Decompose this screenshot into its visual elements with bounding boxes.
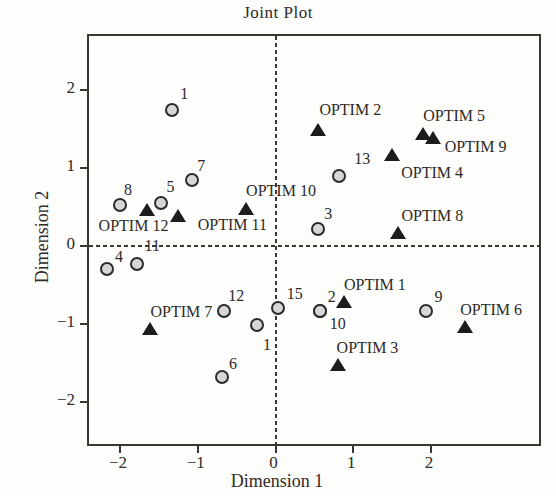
data-point-circle-6 [215,370,229,384]
data-point-label: 7 [197,158,205,174]
data-point-label: 11 [144,238,159,254]
y-axis-tick-label: 2 [41,78,75,98]
zero-reference-line-vertical [275,36,277,444]
chart-title: Joint Plot [243,3,313,23]
data-point-label: 10 [330,316,346,332]
data-point-label: OPTIM 12 [99,218,169,234]
data-point-label: OPTIM 2 [319,102,381,118]
data-point-label: 9 [435,289,443,305]
y-axis-tick [80,167,87,169]
data-point-triangle-optim-12 [139,203,155,216]
x-axis-tick-label: −1 [187,453,205,473]
data-point-triangle-optim-7 [142,322,158,335]
data-point-circle-7 [185,173,199,187]
data-point-label: OPTIM 10 [246,183,316,199]
data-point-circle-13 [332,169,346,183]
y-axis-tick [80,245,87,247]
data-point-label: OPTIM 6 [460,302,522,318]
data-point-label: 1 [263,337,271,353]
plot-area: 17851334111215210916OPTIM 2OPTIM 5OPTIM … [87,34,541,446]
data-point-triangle-optim-10 [238,202,254,215]
data-point-triangle-optim-6 [457,320,473,333]
data-point-label: OPTIM 11 [198,217,267,233]
x-axis-tick [119,446,121,453]
data-point-triangle-optim-8 [390,226,406,239]
x-axis-tick [352,446,354,453]
joint-plot-figure: Joint Plot 17851334111215210916OPTIM 2OP… [0,0,556,496]
x-axis-title: Dimension 1 [231,471,324,492]
data-point-label: 3 [324,206,332,222]
data-point-circle-1 [165,103,179,117]
y-axis-tick-label: −1 [41,312,75,332]
data-point-circle-9 [419,304,433,318]
data-point-label: 8 [124,182,132,198]
x-axis-tick-label: 2 [425,453,434,473]
data-point-circle-4 [100,262,114,276]
data-point-label: OPTIM 3 [337,340,399,356]
data-point-circle-8 [113,198,127,212]
data-point-label: 4 [115,249,123,265]
x-axis-tick [430,446,432,453]
y-axis-tick [80,401,87,403]
y-axis-tick [80,89,87,91]
data-point-triangle-optim-2 [310,123,326,136]
data-point-label: OPTIM 9 [445,139,507,155]
data-point-circle-5 [154,196,168,210]
y-axis-tick [80,323,87,325]
data-point-circle-10 [313,304,327,318]
y-axis-tick-label: 0 [41,234,75,254]
data-point-triangle-optim-11 [170,209,186,222]
data-point-circle-15 [271,301,285,315]
data-point-label: 12 [228,288,244,304]
data-point-circle-12 [217,304,231,318]
x-axis-tick-label: 1 [347,453,356,473]
data-point-label: 15 [287,286,303,302]
data-point-label: OPTIM 4 [401,165,463,181]
data-point-triangle-optim-9 [425,131,441,144]
data-point-label: 2 [328,289,336,305]
x-axis-tick-label: −2 [109,453,127,473]
data-point-circle-3 [311,222,325,236]
data-point-label: 13 [354,151,370,167]
data-point-label: 1 [180,86,188,102]
data-point-label: 6 [229,356,237,372]
data-point-triangle-optim-3 [330,358,346,371]
x-axis-tick [275,446,277,453]
data-point-label: OPTIM 1 [344,277,406,293]
y-axis-tick-label: −2 [41,390,75,410]
data-point-triangle-optim-1 [336,295,352,308]
x-axis-tick [197,446,199,453]
data-point-label: OPTIM 8 [401,208,463,224]
data-point-triangle-optim-4 [384,148,400,161]
data-point-circle-1 [250,318,264,332]
data-point-label: OPTIM 7 [151,304,213,320]
x-axis-tick-label: 0 [269,453,278,473]
y-axis-tick-label: 1 [41,156,75,176]
data-point-label: OPTIM 5 [423,108,485,124]
data-point-circle-11 [130,257,144,271]
data-point-label: 5 [167,179,175,195]
